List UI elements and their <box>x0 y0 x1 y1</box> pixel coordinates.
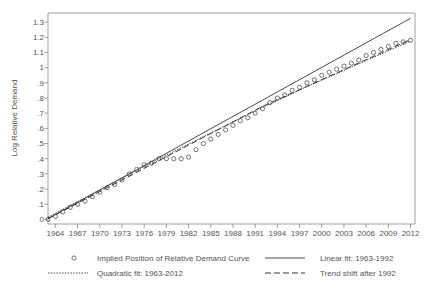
linear-fit-line <box>48 18 411 218</box>
x-tick-label: 2003 <box>335 229 353 238</box>
x-tick-label: 1967 <box>69 229 87 238</box>
data-point <box>290 88 294 92</box>
x-tick-label: 2009 <box>379 229 397 238</box>
legend-label: Implied Position of Relative Demand Curv… <box>97 254 250 263</box>
x-tick-label: 1991 <box>246 229 264 238</box>
quadratic-fit-line <box>48 41 411 217</box>
data-point <box>408 38 412 42</box>
data-point <box>379 47 383 51</box>
data-point <box>231 123 235 127</box>
data-point <box>172 157 176 161</box>
data-point <box>268 100 272 104</box>
data-point <box>297 85 301 89</box>
data-point <box>186 155 190 159</box>
x-tick-label: 1979 <box>157 229 175 238</box>
data-point <box>253 111 257 115</box>
legend-label: Trend shift after 1992 <box>320 269 396 278</box>
y-tick-label: 1.2 <box>33 33 45 42</box>
legend-marker-circle <box>72 256 76 260</box>
data-point <box>312 78 316 82</box>
data-point <box>216 132 220 136</box>
x-tick-label: 1964 <box>47 229 65 238</box>
x-tick-label: 1988 <box>224 229 242 238</box>
data-point <box>246 116 250 120</box>
x-tick-label: 2000 <box>313 229 331 238</box>
x-tick-label: 1982 <box>180 229 198 238</box>
data-point <box>357 58 361 62</box>
legend-label: Quadratic fit: 1963-2012 <box>97 269 183 278</box>
data-point <box>305 81 309 85</box>
y-tick-label: .7 <box>37 109 44 118</box>
y-tick-label: .5 <box>37 139 44 148</box>
y-tick-label: 0 <box>40 215 45 224</box>
plot-frame <box>48 13 415 224</box>
y-tick-label: .6 <box>37 124 44 133</box>
y-tick-label: .8 <box>37 94 44 103</box>
data-point <box>194 148 198 152</box>
data-point <box>179 157 183 161</box>
y-tick-label: .9 <box>37 79 44 88</box>
data-point <box>334 67 338 71</box>
y-axis-title: Log Relative Demand <box>10 80 19 157</box>
data-point <box>364 53 368 57</box>
data-point <box>209 137 213 141</box>
x-tick-label: 1985 <box>202 229 220 238</box>
chart-legend: Implied Position of Relative Demand Curv… <box>48 254 396 278</box>
trend-shift-line <box>48 40 411 219</box>
chart-canvas: Log Relative Demand 0.1.2.3.4.5.6.7.8.91… <box>0 0 428 291</box>
data-points-group <box>46 38 413 221</box>
x-tick-label: 1973 <box>113 229 131 238</box>
data-point <box>371 50 375 54</box>
y-tick-label: 1 <box>40 63 45 72</box>
x-tick-label: 2006 <box>357 229 375 238</box>
data-point <box>223 128 227 132</box>
legend-label: Linear fit: 1963-1992 <box>320 254 394 263</box>
x-tick-label: 1970 <box>91 229 109 238</box>
data-point <box>342 64 346 68</box>
x-tick-label: 1994 <box>268 229 286 238</box>
x-tick-label: 2012 <box>402 229 420 238</box>
x-tick-label: 1976 <box>135 229 153 238</box>
data-point <box>349 61 353 65</box>
data-point <box>201 141 205 145</box>
data-point <box>320 73 324 77</box>
y-tick-label: .2 <box>37 185 44 194</box>
y-tick-label: .1 <box>37 200 44 209</box>
data-point <box>386 44 390 48</box>
y-tick-label: 1.1 <box>33 48 45 57</box>
data-point <box>164 157 168 161</box>
y-tick-label: .4 <box>37 155 44 164</box>
chart-figure: Log Relative Demand 0.1.2.3.4.5.6.7.8.91… <box>0 0 428 291</box>
data-point <box>238 119 242 123</box>
data-point <box>327 70 331 74</box>
x-axis-tick-labels: 1964196719701973197619791982198519881991… <box>47 229 421 238</box>
fit-lines-group <box>48 18 411 218</box>
x-tick-label: 1997 <box>291 229 309 238</box>
y-axis-tick-labels: 0.1.2.3.4.5.6.7.8.911.11.21.3 <box>33 18 45 224</box>
y-tick-label: .3 <box>37 170 44 179</box>
data-point <box>394 41 398 45</box>
y-tick-label: 1.3 <box>33 18 45 27</box>
y-axis-title-group: Log Relative Demand <box>10 80 19 157</box>
data-point <box>275 96 279 100</box>
